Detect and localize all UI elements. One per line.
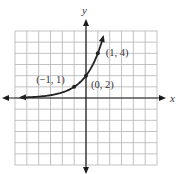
data-point-label: (−1, 1) <box>36 74 65 86</box>
exponential-graph: x y (−1, 1)(0, 2)(1, 4) <box>0 0 179 174</box>
curve-group <box>19 35 105 100</box>
data-point <box>84 74 88 78</box>
curve-left-arrow-icon <box>19 94 26 100</box>
axes: x y <box>2 4 175 174</box>
data-point-label: (0, 2) <box>91 79 114 91</box>
x-axis-left-arrow-icon <box>2 95 9 101</box>
y-axis-label: y <box>81 4 87 16</box>
data-point-label: (1, 4) <box>106 47 129 59</box>
y-axis-down-arrow-icon <box>83 167 89 174</box>
x-axis-label: x <box>169 92 175 104</box>
y-axis-up-arrow-icon <box>83 19 89 26</box>
data-point <box>96 51 100 55</box>
data-point <box>72 85 76 89</box>
x-axis-right-arrow-icon <box>159 95 166 101</box>
curve-top-arrow-icon <box>99 35 105 43</box>
